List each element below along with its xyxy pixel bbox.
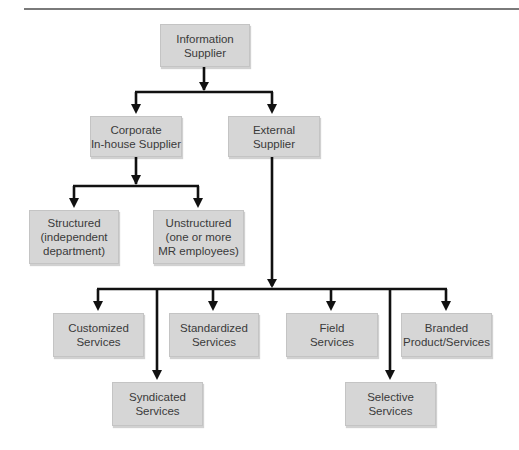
node-unstructured: Unstructured (one or more MR employees) [153,210,244,264]
node-label-line: Information [176,32,234,46]
node-label-line: Customized [68,321,129,335]
node-label-line: Field [320,321,345,335]
node-structured: Structured (independent department) [29,210,119,264]
node-label-line: Services [368,404,412,418]
node-label-line: Selective [367,390,414,404]
node-label-line: Services [76,335,120,349]
node-customized-services: Customized Services [53,313,144,357]
node-label-line: In-house Supplier [91,137,181,151]
node-label-line: Syndicated [129,390,186,404]
node-label-line: External [253,123,295,137]
node-label-line: Structured [47,216,100,230]
node-label-line: Branded [425,321,468,335]
node-corporate-in-house-supplier: Corporate In-house Supplier [90,116,182,157]
node-field-services: Field Services [286,313,378,357]
node-information-supplier: Information Supplier [160,24,250,67]
node-label-line: Services [310,335,354,349]
node-standardized-services: Standardized Services [169,313,259,357]
node-selective-services: Selective Services [345,382,436,426]
node-syndicated-services: Syndicated Services [112,382,203,426]
node-label-line: Services [135,404,179,418]
node-label-line: Corporate [110,123,161,137]
node-label-line: Product/Services [403,335,490,349]
node-external-supplier: External Supplier [228,116,320,157]
node-label-line: (independent [40,230,107,244]
node-label-line: MR employees) [158,244,239,258]
node-branded-product-services: Branded Product/Services [401,313,492,357]
node-label-line: department) [43,244,105,258]
node-label-line: (one or more [166,230,232,244]
node-label-line: Supplier [253,137,295,151]
node-label-line: Supplier [184,46,226,60]
node-label-line: Standardized [180,321,248,335]
node-label-line: Unstructured [166,216,232,230]
node-label-line: Services [192,335,236,349]
